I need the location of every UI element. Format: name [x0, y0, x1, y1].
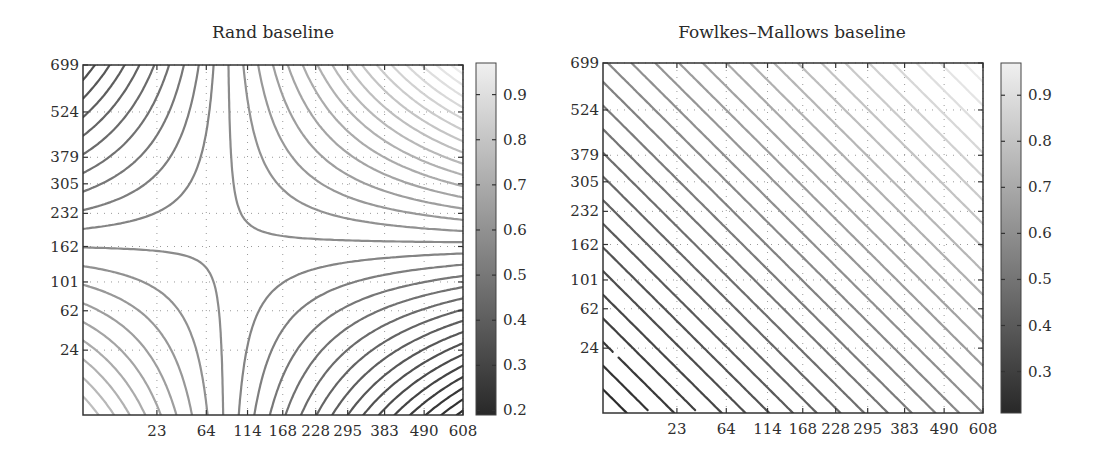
colorbar-tick-label: 0.5 — [1028, 272, 1052, 287]
x-tick-label: 295 — [853, 422, 882, 437]
y-tick-label: 62 — [580, 301, 599, 316]
x-tick-label: 114 — [753, 422, 782, 437]
x-tick-label: 64 — [717, 422, 736, 437]
x-tick-label: 383 — [890, 422, 919, 437]
colorbar-tick-label: 0.8 — [1028, 134, 1052, 149]
y-tick-label: 699 — [570, 56, 599, 71]
y-tick-label: 162 — [570, 237, 599, 252]
colorbar-tick-label: 0.7 — [1028, 180, 1052, 195]
y-tick-label: 305 — [570, 174, 599, 189]
colorbar-tick-label: 0.3 — [1028, 364, 1052, 379]
y-tick-label: 524 — [570, 102, 599, 117]
x-tick-label: 608 — [969, 422, 998, 437]
y-tick-label: 24 — [580, 341, 599, 356]
x-tick-label: 168 — [788, 422, 817, 437]
colorbar-tick-label: 0.9 — [1028, 88, 1052, 103]
y-tick-label: 379 — [570, 148, 599, 163]
x-tick-label: 228 — [821, 422, 850, 437]
fowlkes-mallows-contour-plot — [0, 0, 1094, 460]
colorbar-tick-label: 0.4 — [1028, 318, 1052, 333]
fowlkes-mallows-panel: Fowlkes–Mallows baseline 236411416822829… — [0, 0, 1094, 460]
y-tick-label: 101 — [570, 272, 599, 287]
x-tick-label: 490 — [930, 422, 959, 437]
y-tick-label: 232 — [570, 204, 599, 219]
colorbar-tick-label: 0.6 — [1028, 226, 1052, 241]
x-tick-label: 23 — [667, 422, 686, 437]
